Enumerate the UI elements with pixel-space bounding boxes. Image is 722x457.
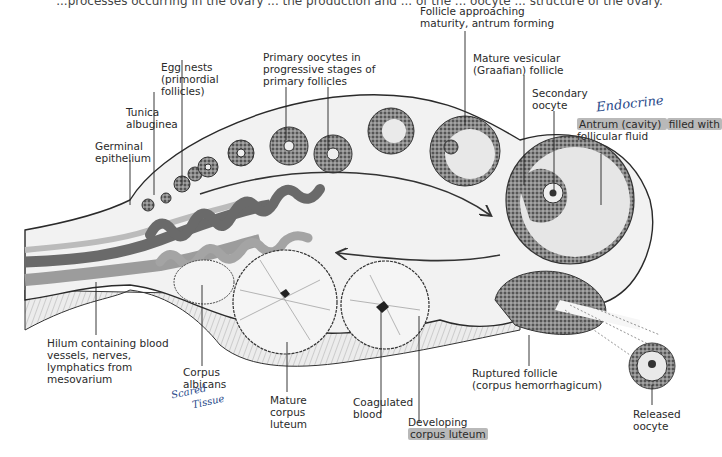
highlighted-text: Antrum (cavity) xyxy=(577,118,667,130)
label-line: corpus xyxy=(270,406,307,418)
label-tunica-albuginea: Tunica albuginea xyxy=(126,106,178,130)
label-line: Follicle approaching xyxy=(420,5,554,17)
label-developing-corpus-luteum: Developing corpus luteum xyxy=(408,416,488,440)
label-line: corpus luteum xyxy=(408,428,488,440)
label-follicle-approaching-maturity: Follicle approaching maturity, antrum fo… xyxy=(420,5,554,29)
label-antrum: Antrum (cavity) filled with follicular f… xyxy=(577,118,722,142)
label-line: (Graafian) follicle xyxy=(473,64,564,76)
label-line: oocyte xyxy=(633,420,681,432)
label-line: Primary oocytes in xyxy=(263,51,375,63)
label-line: progressive stages of xyxy=(263,63,375,75)
label-line: luteum xyxy=(270,418,307,430)
graafian-follicle xyxy=(506,136,634,264)
label-ruptured-follicle: Ruptured follicle (corpus hemorrhagicum) xyxy=(472,367,602,391)
label-line: Germinal xyxy=(95,140,151,152)
highlighted-text: corpus luteum xyxy=(408,428,488,440)
egg-nest xyxy=(142,199,154,211)
label-line: oocyte xyxy=(532,99,588,111)
label-coagulated-blood: Coagulated blood xyxy=(353,396,413,420)
primary-follicle xyxy=(314,135,352,173)
label-line: Secondary xyxy=(532,87,588,99)
label-line: epithelium xyxy=(95,152,151,164)
corpus-albicans xyxy=(174,260,234,304)
primary-follicle xyxy=(270,127,308,165)
label-primary-oocytes: Primary oocytes in progressive stages of… xyxy=(263,51,375,87)
label-line: Hilum containing blood xyxy=(47,337,169,349)
label-line: albuginea xyxy=(126,118,178,130)
egg-nest xyxy=(161,193,171,203)
label-line: Mature vesicular xyxy=(473,52,564,64)
ruptured-follicle xyxy=(495,271,660,355)
label-line: primary follicles xyxy=(263,75,375,87)
label-line: follicular fluid xyxy=(577,130,722,142)
label-secondary-oocyte: Secondary oocyte xyxy=(532,87,588,111)
developing-corpus-luteum xyxy=(341,261,429,349)
released-oocyte xyxy=(629,343,675,389)
label-line: follicles) xyxy=(161,85,219,97)
highlighted-text: filled with xyxy=(667,118,722,130)
antrum-forming-follicle xyxy=(368,108,414,154)
label-line: Egg nests xyxy=(161,61,219,73)
label-mature-corpus-luteum: Mature corpus luteum xyxy=(270,394,307,430)
label-line: Tunica xyxy=(126,106,178,118)
label-released-oocyte: Released oocyte xyxy=(633,408,681,432)
label-line: Corpus xyxy=(183,366,226,378)
follicle-approaching-maturity xyxy=(430,116,500,186)
label-line: lymphatics from xyxy=(47,361,169,373)
label-line: Antrum (cavity) filled with xyxy=(577,118,722,130)
label-line: Coagulated xyxy=(353,396,413,408)
label-egg-nests: Egg nests (primordial follicles) xyxy=(161,61,219,97)
label-hilum: Hilum containing blood vessels, nerves, … xyxy=(47,337,169,385)
label-mature-vesicular-follicle: Mature vesicular (Graafian) follicle xyxy=(473,52,564,76)
label-line: blood xyxy=(353,408,413,420)
label-line: (corpus hemorrhagicum) xyxy=(472,379,602,391)
label-line: Released xyxy=(633,408,681,420)
primary-follicle xyxy=(228,140,254,166)
label-line: maturity, antrum forming xyxy=(420,17,554,29)
label-line: mesovarium xyxy=(47,373,169,385)
label-line: Mature xyxy=(270,394,307,406)
mature-corpus-luteum xyxy=(233,250,337,354)
label-line: vessels, nerves, xyxy=(47,349,169,361)
label-line: Developing xyxy=(408,416,488,428)
label-line: (primordial xyxy=(161,73,219,85)
label-line: Ruptured follicle xyxy=(472,367,602,379)
primary-follicle xyxy=(198,157,218,177)
label-germinal-epithelium: Germinal epithelium xyxy=(95,140,151,164)
